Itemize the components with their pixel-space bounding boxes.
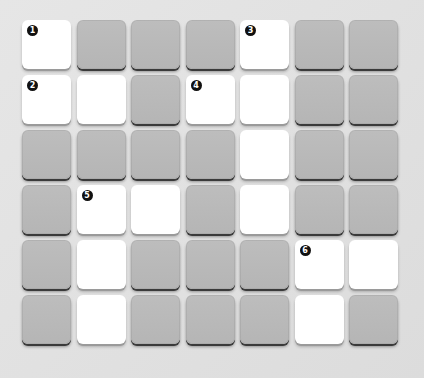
crossword-grid: 132456 (22, 20, 398, 344)
grid-cell-blocked (186, 240, 235, 289)
grid-cell-blocked (22, 240, 71, 289)
grid-cell-blocked (349, 20, 398, 69)
grid-cell-open[interactable] (77, 75, 126, 124)
clue-number-badge: 4 (191, 80, 202, 91)
grid-cell-blocked (240, 240, 289, 289)
grid-cell-blocked (77, 20, 126, 69)
grid-cell-open[interactable] (295, 295, 344, 344)
grid-cell-open[interactable] (131, 185, 180, 234)
grid-cell-open[interactable] (349, 240, 398, 289)
grid-cell-open[interactable] (240, 185, 289, 234)
grid-cell-blocked (186, 20, 235, 69)
grid-cell-blocked (349, 130, 398, 179)
grid-cell-blocked (131, 240, 180, 289)
clue-number-badge: 6 (300, 245, 311, 256)
grid-cell-blocked (295, 20, 344, 69)
grid-cell-open[interactable] (77, 295, 126, 344)
grid-cell-open[interactable] (77, 240, 126, 289)
grid-cell-open[interactable]: 2 (22, 75, 71, 124)
grid-cell-open[interactable]: 3 (240, 20, 289, 69)
clue-number-badge: 2 (27, 80, 38, 91)
clue-number-badge: 5 (82, 190, 93, 201)
grid-cell-blocked (131, 295, 180, 344)
grid-cell-blocked (295, 130, 344, 179)
grid-cell-open[interactable] (240, 130, 289, 179)
grid-cell-blocked (77, 130, 126, 179)
grid-cell-open[interactable]: 1 (22, 20, 71, 69)
grid-cell-open[interactable]: 4 (186, 75, 235, 124)
grid-cell-blocked (131, 130, 180, 179)
grid-cell-blocked (186, 295, 235, 344)
grid-cell-blocked (349, 295, 398, 344)
grid-cell-blocked (22, 130, 71, 179)
grid-cell-blocked (22, 295, 71, 344)
grid-cell-blocked (186, 185, 235, 234)
clue-number-badge: 1 (27, 25, 38, 36)
grid-cell-blocked (22, 185, 71, 234)
grid-cell-open[interactable]: 5 (77, 185, 126, 234)
grid-cell-blocked (131, 20, 180, 69)
grid-cell-blocked (295, 75, 344, 124)
grid-cell-blocked (295, 185, 344, 234)
grid-cell-blocked (349, 185, 398, 234)
grid-cell-open[interactable] (240, 75, 289, 124)
clue-number-badge: 3 (245, 25, 256, 36)
grid-cell-blocked (186, 130, 235, 179)
grid-cell-blocked (240, 295, 289, 344)
grid-cell-open[interactable]: 6 (295, 240, 344, 289)
grid-cell-blocked (349, 75, 398, 124)
grid-cell-blocked (131, 75, 180, 124)
